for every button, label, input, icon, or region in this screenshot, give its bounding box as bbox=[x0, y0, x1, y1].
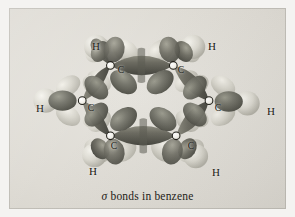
molecule-stage: C C C C C C H H H H H H bbox=[9, 8, 286, 209]
caption-text: bonds in benzene bbox=[107, 190, 193, 202]
figure-caption: σ bonds in benzene bbox=[9, 190, 286, 202]
atom-label-h3: H bbox=[267, 106, 275, 117]
figure-plate: C C C C C C H H H H H H σ bonds in benze… bbox=[0, 0, 295, 217]
atom-label-h1: H bbox=[92, 41, 100, 52]
benzene-sigma-framework-svg bbox=[9, 8, 286, 209]
atom-label-h6: H bbox=[36, 103, 44, 114]
atom-label-c2: C bbox=[178, 66, 184, 76]
atom-label-c4: C bbox=[188, 142, 194, 152]
atom-label-c5: C bbox=[111, 142, 117, 152]
atom-label-h5: H bbox=[89, 166, 97, 177]
illustration-canvas: C C C C C C H H H H H H σ bonds in benze… bbox=[9, 8, 286, 209]
atom-label-h2: H bbox=[208, 41, 216, 52]
atom-label-c3: C bbox=[215, 104, 221, 114]
atom-label-h4: H bbox=[212, 167, 220, 178]
cc-sigma-bonds-group bbox=[82, 48, 209, 154]
atom-label-c6: C bbox=[88, 104, 94, 114]
atom-label-c1: C bbox=[118, 66, 124, 76]
